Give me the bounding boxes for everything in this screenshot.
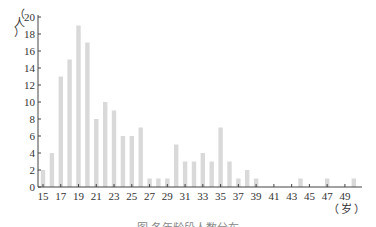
x-tick-label-19: 19: [73, 190, 85, 202]
chart-plot-area: 0246810121416182015171921232527293133353…: [0, 0, 376, 227]
x-tick-label-37: 37: [233, 190, 245, 202]
x-tick-label-45: 45: [304, 190, 316, 202]
bar-age-28: [156, 179, 160, 188]
bar-age-22: [103, 102, 107, 187]
x-tick-label-39: 39: [251, 190, 263, 202]
x-tick-label-33: 33: [197, 190, 209, 202]
y-tick-label-12: 12: [24, 79, 35, 91]
x-axis-label: （岁）: [328, 200, 367, 216]
x-tick-label-31: 31: [180, 190, 191, 202]
bar-age-30: [174, 145, 178, 188]
bar-age-31: [183, 162, 187, 188]
bar-age-50: [352, 179, 356, 188]
bar-age-19: [76, 26, 80, 188]
figure-caption: 图 各年龄段人数分布: [0, 219, 376, 227]
x-tick-label-21: 21: [91, 190, 102, 202]
bar-age-32: [192, 162, 196, 188]
bar-age-33: [201, 153, 205, 187]
bar-age-35: [218, 128, 222, 188]
y-tick-label-0: 0: [30, 181, 36, 193]
x-tick-label-17: 17: [55, 190, 67, 202]
bar-age-17: [59, 77, 63, 188]
bar-age-20: [85, 43, 89, 188]
bar-age-38: [245, 170, 249, 187]
bar-age-36: [227, 162, 231, 188]
x-tick-label-29: 29: [162, 190, 174, 202]
x-tick-label-41: 41: [268, 190, 279, 202]
bar-age-44: [298, 179, 302, 188]
y-axis-label: （ 人 ）: [12, 10, 26, 37]
y-tick-label-6: 6: [30, 130, 36, 142]
y-tick-label-16: 16: [24, 45, 36, 57]
y-tick-label-14: 14: [24, 62, 36, 74]
y-tick-label-8: 8: [30, 113, 36, 125]
x-tick-label-25: 25: [126, 190, 138, 202]
bar-age-23: [112, 111, 116, 188]
x-tick-label-27: 27: [144, 190, 156, 202]
x-tick-label-43: 43: [286, 190, 298, 202]
y-axis-label-close-paren: ）: [12, 28, 26, 37]
age-distribution-chart: 0246810121416182015171921232527293133353…: [0, 0, 376, 227]
bar-age-25: [130, 136, 134, 187]
y-tick-label-4: 4: [30, 147, 36, 159]
y-tick-label-2: 2: [30, 164, 36, 176]
bar-age-24: [121, 136, 125, 187]
bar-age-26: [139, 128, 143, 188]
bar-age-18: [67, 60, 71, 188]
bar-age-16: [50, 153, 54, 187]
bar-age-34: [210, 162, 214, 188]
y-tick-label-10: 10: [24, 96, 36, 108]
x-tick-label-23: 23: [109, 190, 121, 202]
bar-age-21: [94, 119, 98, 187]
x-tick-label-15: 15: [38, 190, 50, 202]
x-tick-label-35: 35: [215, 190, 227, 202]
